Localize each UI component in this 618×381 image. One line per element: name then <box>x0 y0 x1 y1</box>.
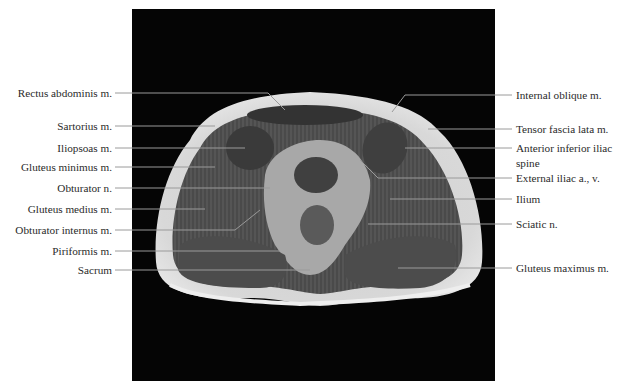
central-dark-structure <box>294 157 338 193</box>
label-external-iliac-vessels: External iliac a., v. <box>516 172 600 185</box>
label-anterior-inferior-iliac-spine: Anterior inferior iliac <box>516 142 612 155</box>
label-gluteus-minimus: Gluteus minimus m. <box>21 161 112 174</box>
label-obturator-internus: Obturator internus m. <box>15 224 112 237</box>
label-ilium: Ilium <box>516 193 540 206</box>
label-sciatic-nerve: Sciatic n. <box>516 218 558 231</box>
label-gluteus-medius: Gluteus medius m. <box>28 203 112 216</box>
mri-figure: Rectus abdominis m. Sartorius m. Iliopso… <box>0 0 618 381</box>
label-iliopsoas: Iliopsoas m. <box>57 142 112 155</box>
label-gluteus-maximus: Gluteus maximus m. <box>516 262 609 275</box>
label-tensor-fascia-lata: Tensor fascia lata m. <box>516 123 608 136</box>
label-obturator-nerve: Obturator n. <box>57 182 112 195</box>
rectum <box>300 205 334 245</box>
label-anterior-inferior-iliac-spine-cont: spine <box>516 157 540 170</box>
label-rectus-abdominis: Rectus abdominis m. <box>18 87 112 100</box>
label-internal-oblique: Internal oblique m. <box>516 89 601 102</box>
label-sacrum: Sacrum <box>78 264 112 277</box>
label-sartorius: Sartorius m. <box>57 120 112 133</box>
rectus-abdominis <box>247 105 363 125</box>
label-piriformis: Piriformis m. <box>52 245 112 258</box>
